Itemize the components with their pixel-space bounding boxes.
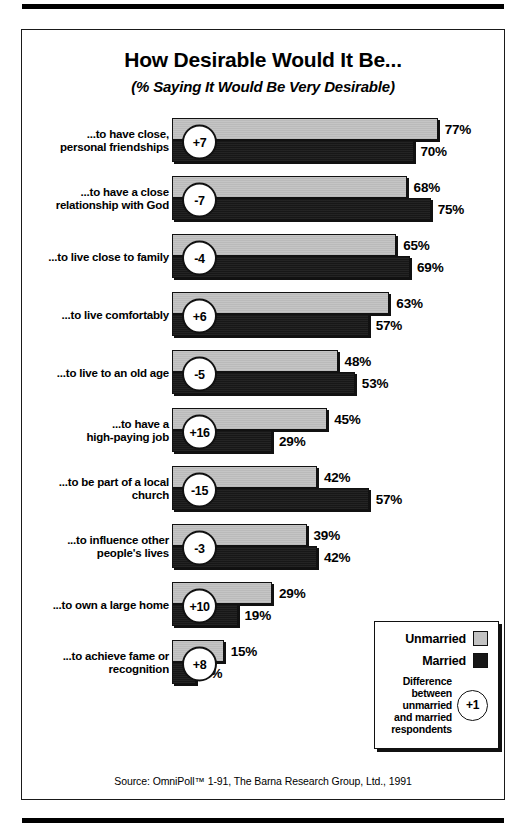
bar-value-unmarried: 77% (445, 122, 471, 137)
row-bars: 77%70%+7 (172, 118, 500, 166)
difference-badge: +6 (182, 299, 217, 334)
chart-row: ...to live comfortably63%57%+6 (22, 286, 504, 344)
bar-value-married: 69% (417, 260, 443, 275)
bar-value-married: 42% (324, 550, 350, 565)
bar-line-unmarried: 65% (172, 234, 500, 256)
bar-line-married: 69% (172, 256, 500, 278)
bar-line-married: 29% (172, 430, 500, 452)
bar-value-unmarried: 39% (314, 528, 340, 543)
chart-row: ...to be part of a localchurch42%57%-15 (22, 460, 504, 518)
row-label: ...to be part of a localchurch (30, 460, 169, 518)
chart-row: ...to live to an old age48%53%-5 (22, 344, 504, 402)
bar-value-unmarried: 68% (414, 180, 440, 195)
difference-badge: -7 (182, 183, 217, 218)
row-label-line-1: ...to achieve fame or (63, 650, 169, 663)
chart-row: ...to have close,personal friendships77%… (22, 112, 504, 170)
bar-line-unmarried: 63% (172, 292, 500, 314)
row-label-line-1: ...to live to an old age (57, 367, 169, 380)
bar-line-unmarried: 39% (172, 524, 500, 546)
row-label: ...to achieve fame orrecognition (30, 634, 169, 692)
bar-line-married: 42% (172, 546, 500, 568)
bar-line-unmarried: 77% (172, 118, 500, 140)
bar-value-married: 29% (279, 434, 305, 449)
row-bars: 48%53%-5 (172, 350, 500, 398)
chart-page: How Desirable Would It Be... (% Saying I… (0, 0, 526, 828)
difference-badge: +8 (182, 647, 217, 682)
legend-item-unmarried: Unmarried (385, 631, 488, 646)
row-label-line-1: ...to live comfortably (62, 309, 169, 322)
difference-badge: -5 (182, 357, 217, 392)
difference-badge: +7 (182, 125, 217, 160)
legend-note-line-5: respondents (391, 723, 452, 735)
row-label-line-1: ...to influence other (67, 534, 169, 547)
row-label-line-2: personal friendships (60, 141, 169, 154)
chart-row: ...to live close to family65%69%-4 (22, 228, 504, 286)
chart-row: ...to have a closerelationship with God6… (22, 170, 504, 228)
legend-swatch-married-icon (473, 653, 488, 668)
bar-value-unmarried: 15% (231, 644, 257, 659)
legend-note-line-3: unmarried (391, 699, 452, 711)
bar-line-married: 57% (172, 488, 500, 510)
row-label-line-2: people's lives (97, 547, 169, 560)
legend-label-married: Married (422, 654, 466, 668)
difference-badge: -4 (182, 241, 217, 276)
source-note: Source: OmniPoll™ 1-91, The Barna Resear… (22, 775, 504, 787)
row-label: ...to live comfortably (30, 286, 169, 344)
bar-value-married: 57% (376, 492, 402, 507)
bar-line-unmarried: 42% (172, 466, 500, 488)
row-label: ...to own a large home (30, 576, 169, 634)
difference-badge: +10 (182, 589, 217, 624)
bar-value-unmarried: 63% (396, 296, 422, 311)
row-bars: 42%57%-15 (172, 466, 500, 514)
chart-row: ...to influence otherpeople's lives39%42… (22, 518, 504, 576)
legend-item-married: Married (385, 653, 488, 668)
bar-value-married: 57% (376, 318, 402, 333)
legend-difference-badge: +1 (457, 690, 488, 721)
bar-value-married: 70% (421, 144, 447, 159)
row-bars: 63%57%+6 (172, 292, 500, 340)
bar-value-unmarried: 65% (403, 238, 429, 253)
row-label: ...to live to an old age (30, 344, 169, 402)
row-label-line-1: ...to live close to family (48, 251, 169, 264)
row-label-line-1: ...to be part of a local (59, 476, 169, 489)
bar-line-married: 57% (172, 314, 500, 336)
row-bars: 68%75%-7 (172, 176, 500, 224)
legend-note-line-2: between (391, 687, 452, 699)
row-bars: 65%69%-4 (172, 234, 500, 282)
bar-line-unmarried: 68% (172, 176, 500, 198)
bar-value-unmarried: 45% (334, 412, 360, 427)
row-label-line-2: high-paying job (86, 431, 169, 444)
row-label: ...to live close to family (30, 228, 169, 286)
row-label-line-1: ...to have a close (81, 186, 169, 199)
row-label-line-1: ...to own a large home (53, 599, 169, 612)
page-subtitle: (% Saying It Would Be Very Desirable) (22, 78, 504, 95)
bar-line-married: 53% (172, 372, 500, 394)
legend-note-line-4: and married (391, 711, 452, 723)
bar-value-unmarried: 42% (324, 470, 350, 485)
difference-badge: -3 (182, 531, 217, 566)
legend-difference-note: Difference between unmarried and married… (385, 675, 488, 735)
bar-value-married: 19% (245, 608, 271, 623)
page-title: How Desirable Would It Be... (22, 48, 504, 72)
chart-legend: Unmarried Married Difference between unm… (374, 621, 499, 749)
bar-line-unmarried: 29% (172, 582, 500, 604)
legend-note-text: Difference between unmarried and married… (391, 675, 452, 735)
bar-line-married: 70% (172, 140, 500, 162)
chart-panel: How Desirable Would It Be... (% Saying I… (21, 29, 505, 800)
row-label-line-1: ...to have close, (87, 128, 169, 141)
legend-label-unmarried: Unmarried (405, 632, 466, 646)
row-bars: 45%29%+16 (172, 408, 500, 456)
bar-value-unmarried: 48% (345, 354, 371, 369)
bottom-rule (22, 818, 504, 823)
legend-swatch-unmarried-icon (473, 631, 488, 646)
row-label-line-2: church (132, 489, 169, 502)
bar-line-unmarried: 45% (172, 408, 500, 430)
bar-line-unmarried: 48% (172, 350, 500, 372)
chart-row: ...to have ahigh-paying job45%29%+16 (22, 402, 504, 460)
legend-note-line-1: Difference (391, 675, 452, 687)
top-rule (22, 4, 504, 9)
bar-value-unmarried: 29% (279, 586, 305, 601)
difference-badge: +16 (182, 415, 217, 450)
difference-badge: -15 (182, 473, 217, 508)
row-bars: 39%42%-3 (172, 524, 500, 572)
